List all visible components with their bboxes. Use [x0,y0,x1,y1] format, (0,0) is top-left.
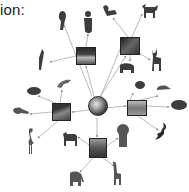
savanna-icon [89,138,107,158]
wetland-icon [52,103,71,121]
globe-icon [88,96,108,116]
giraffe-icon [111,160,123,186]
flamingo-icon [26,127,36,155]
deer-icon [149,48,163,72]
frog-icon [134,80,146,90]
bear-icon [118,62,135,74]
beaver-icon [26,86,42,96]
squirrel-icon [102,3,118,17]
seal-icon [156,83,172,91]
moose-icon [141,3,159,19]
dolphin-icon [56,78,72,90]
scorpion-icon [153,122,169,142]
lion-icon [116,124,130,148]
parrot-icon [55,10,69,32]
zebra-icon [61,131,79,147]
toucan-icon [37,48,45,72]
platypus-icon [12,106,30,116]
monkey-icon [82,10,94,34]
turtle-icon [169,99,188,111]
elephant-icon [67,170,85,188]
ocean-icon [127,100,147,116]
rainforest-icon [76,47,96,65]
forest-icon [120,37,140,55]
